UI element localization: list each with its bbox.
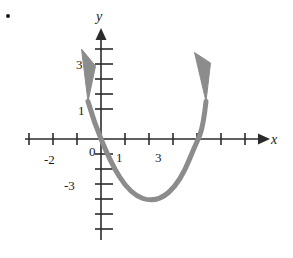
y-axis-label: y <box>94 9 103 24</box>
y-tick-label-1: 1 <box>78 103 85 118</box>
y-tick-label-3: 3 <box>76 57 83 72</box>
x-axis-arrowhead <box>258 134 270 145</box>
x-axis <box>25 133 270 145</box>
x-tick-label-3: 3 <box>155 150 162 165</box>
right-branch-arrowhead <box>195 53 211 102</box>
x-tick-label-1: 1 <box>116 150 123 165</box>
parabola-figure: x y 0 -2 1 3 3 1 -3 <box>0 0 293 258</box>
origin-label: 0 <box>89 144 96 159</box>
y-axis-arrowhead <box>96 28 107 40</box>
y-tick-label-minus3: -3 <box>64 178 75 193</box>
left-branch-arrowhead <box>82 49 96 102</box>
parabola-path <box>88 102 206 200</box>
x-axis-label: x <box>270 132 278 147</box>
x-tick-label-minus2: -2 <box>44 152 55 167</box>
